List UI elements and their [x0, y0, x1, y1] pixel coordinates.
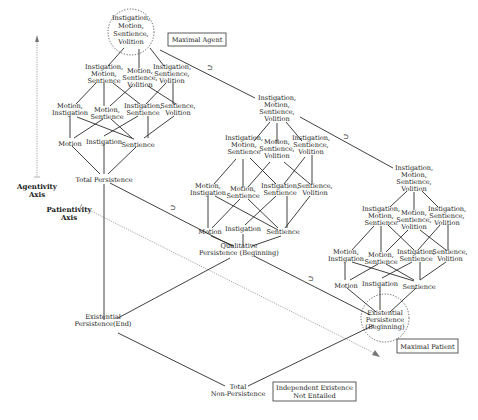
- node-row4: Motion Instigation Sentience: [58, 138, 155, 149]
- node-existential-persistence-beginning: Existential Persistence (Beginning): [365, 309, 405, 331]
- agentivity-patientivity-lattice-diagram: Agentivity Axis Patientivity Axis ⊃ ⊃ ⊃ …: [0, 0, 478, 420]
- svg-text:Volition: Volition: [158, 77, 185, 85]
- patientivity-axis-label-2: Axis: [60, 213, 77, 222]
- svg-text:Volition: Volition: [436, 255, 463, 263]
- svg-text:Volition: Volition: [164, 109, 191, 117]
- node-total-non-persistence: Total Non-Persistence: [211, 383, 266, 398]
- svg-text:Instigation: Instigation: [190, 189, 227, 197]
- svg-text:Sentience: Sentience: [402, 283, 435, 291]
- node-top: Instigation, Motion, Sentience, Volition: [395, 164, 433, 193]
- maximal-patient-box: Maximal Patient: [397, 339, 458, 353]
- node-row2: Instigation, Motion, Sentience Motion, S…: [362, 205, 466, 231]
- svg-text:Sentience: Sentience: [364, 219, 397, 227]
- svg-text:Motion: Motion: [58, 140, 82, 148]
- svg-text:Maximal Agent: Maximal Agent: [172, 36, 223, 44]
- independent-existence-box: Independent Existence Not Entailed: [273, 382, 356, 401]
- lattice-qualitative-persistence: Instigation, Motion, Sentience, Volition…: [190, 94, 333, 257]
- svg-text:Sentience: Sentience: [266, 228, 299, 236]
- svg-text:Volition: Volition: [400, 223, 427, 231]
- node-top: Instigation, Motion, Sentience, Volition: [258, 94, 296, 123]
- svg-text:Volition: Volition: [400, 185, 427, 193]
- node-top: Instigation, Motion, Sentience, Volition: [112, 14, 150, 46]
- svg-text:Volition: Volition: [301, 189, 328, 197]
- agentivity-axis: Agentivity Axis: [16, 35, 58, 199]
- svg-text:Sentience: Sentience: [121, 141, 154, 149]
- svg-text:Motion,: Motion,: [118, 22, 144, 30]
- svg-text:Sentience: Sentience: [227, 148, 260, 156]
- svg-text:Volition: Volition: [117, 38, 144, 46]
- svg-text:Instigation: Instigation: [52, 109, 89, 117]
- supset-symbol: ⊃: [207, 64, 213, 72]
- svg-text:Sentience: Sentience: [90, 113, 123, 121]
- svg-text:Instigation,: Instigation,: [112, 14, 150, 22]
- maximal-agent-box: Maximal Agent: [168, 33, 226, 46]
- svg-text:(Beginning): (Beginning): [365, 323, 405, 331]
- persistence-edges: [104, 50, 393, 386]
- supset-symbol: ⊃: [170, 204, 176, 212]
- supset-symbol: ⊃: [343, 133, 349, 141]
- svg-text:Sentience: Sentience: [263, 189, 296, 197]
- svg-text:Motion: Motion: [198, 228, 222, 236]
- axis-arrow-diagonal-icon: [372, 350, 380, 357]
- svg-text:Non-Persistence: Non-Persistence: [211, 390, 266, 398]
- svg-text:Instigation: Instigation: [86, 138, 123, 146]
- svg-text:Sentience: Sentience: [126, 109, 159, 117]
- svg-text:Volition: Volition: [263, 115, 290, 123]
- svg-text:Instigation: Instigation: [362, 280, 399, 288]
- node-row3: Motion, Instigation Motion, Sentience In…: [328, 248, 468, 266]
- svg-text:Volition: Volition: [263, 152, 290, 160]
- lattice-existential-persistence: Instigation, Motion, Sentience, Volition…: [328, 164, 468, 342]
- node-total-persistence: Total Persistence: [75, 176, 132, 184]
- svg-text:Volition: Volition: [297, 148, 324, 156]
- svg-text:Volition: Volition: [433, 219, 460, 227]
- node-row4: Motion Instigation Sentience: [334, 280, 436, 291]
- node-qualitative-persistence: Qualitative Persistence (Beginning): [199, 242, 279, 257]
- svg-text:Sentience: Sentience: [226, 192, 259, 200]
- svg-text:Instigation: Instigation: [225, 225, 262, 233]
- svg-text:Instigation: Instigation: [328, 255, 365, 263]
- svg-text:Motion: Motion: [334, 282, 358, 290]
- node-row2: Instigation, Motion, Sentience Motion, S…: [225, 134, 330, 160]
- agentivity-axis-label-2: Axis: [28, 190, 45, 199]
- svg-text:Sentience: Sentience: [87, 77, 120, 85]
- node-row3: Motion, Instigation Motion, Sentience In…: [52, 102, 196, 121]
- node-row3: Motion, Instigation Motion, Sentience In…: [190, 182, 333, 200]
- svg-text:Sentience,: Sentience,: [113, 30, 148, 38]
- svg-text:Not Entailed: Not Entailed: [293, 392, 336, 400]
- axis-arrow-up-icon: [35, 35, 39, 42]
- svg-text:Persistence (Beginning): Persistence (Beginning): [199, 249, 279, 257]
- supset-symbol: ⊃: [308, 275, 314, 283]
- svg-text:Sentience: Sentience: [364, 258, 397, 266]
- svg-text:Persistence(End): Persistence(End): [75, 320, 132, 328]
- svg-text:Volition: Volition: [126, 81, 153, 89]
- svg-text:Sentience: Sentience: [399, 255, 432, 263]
- node-row2: Instigation, Motion, Sentience Motion, S…: [85, 63, 191, 89]
- svg-text:Maximal Patient: Maximal Patient: [400, 343, 455, 351]
